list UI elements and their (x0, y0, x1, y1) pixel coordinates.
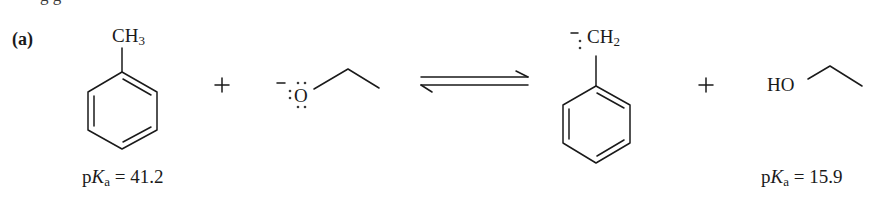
plus-sign-2 (699, 78, 713, 92)
pka-k: K (771, 166, 784, 187)
ethanol-ho-label: HO (767, 74, 794, 96)
toluene-ch3-label: CH3 (112, 25, 145, 49)
pka-p: p (761, 166, 771, 187)
pka-value: = 15.9 (789, 166, 842, 187)
ethoxide-structure: O (277, 69, 379, 108)
pka-value: = 41.2 (110, 166, 163, 187)
toluene-structure (88, 48, 157, 149)
subscript-3: 3 (138, 33, 145, 48)
toluene-pka-label: pKa = 41.2 (82, 166, 163, 190)
equilibrium-arrow (421, 71, 528, 92)
svg-text:O: O (294, 85, 308, 106)
benzyl-ch2-label: CH2 (587, 26, 620, 50)
ethanol-chain (808, 66, 862, 86)
pka-p: p (82, 166, 92, 187)
ch-text: CH (112, 25, 138, 46)
pka-k: K (92, 166, 105, 187)
subscript-2: 2 (613, 34, 620, 49)
benzyl-anion-structure (563, 33, 630, 163)
ch-text: CH (587, 26, 613, 47)
plus-sign-1 (215, 78, 229, 92)
ethanol-pka-label: pKa = 15.9 (761, 166, 842, 190)
